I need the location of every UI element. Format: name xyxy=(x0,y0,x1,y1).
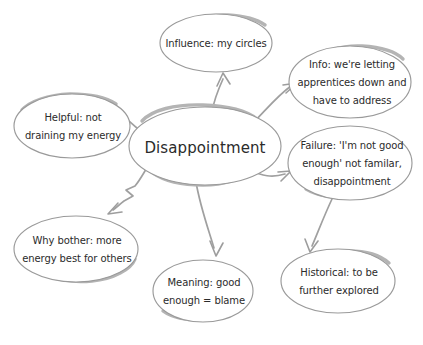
node-influence[interactable]: Influence: my circles xyxy=(160,14,272,72)
node-meaning-label-line2: enough = blame xyxy=(163,295,245,306)
node-failure-label-line3: disappointment xyxy=(313,176,390,187)
node-failure-label-line2: enough' not familar, xyxy=(302,158,401,169)
connector-central-to-meaning xyxy=(196,182,223,256)
node-failure-label-line1: Failure: 'I'm not good xyxy=(300,140,403,151)
node-historical-label-line1: Historical: to be xyxy=(300,267,377,278)
node-why-bother[interactable]: Why bother: more energy best for others xyxy=(14,216,138,282)
mindmap-diagram: Disappointment Influence: my circles Inf… xyxy=(0,0,423,345)
node-info-label-line3: have to address xyxy=(313,95,392,106)
node-meaning-outline xyxy=(153,260,253,322)
node-info-label-line1: Info: we're letting xyxy=(309,59,395,70)
node-meaning-label-line1: Meaning: good xyxy=(168,277,241,288)
node-central-label: Disappointment xyxy=(144,139,265,157)
node-influence-label: Influence: my circles xyxy=(165,38,266,49)
node-helpful-outline xyxy=(14,94,130,158)
node-failure[interactable]: Failure: 'I'm not good enough' not famil… xyxy=(288,126,412,200)
connector-central-to-why-bother xyxy=(108,166,148,214)
node-helpful[interactable]: Helpful: not draining my energy xyxy=(14,94,130,158)
node-why-bother-label-line1: Why bother: more xyxy=(33,235,122,246)
node-info[interactable]: Info: we're letting apprentices down and… xyxy=(289,46,411,118)
node-historical-outline xyxy=(281,249,395,313)
mindmap-canvas: Disappointment Influence: my circles Inf… xyxy=(0,0,423,345)
connector-failure-to-historical xyxy=(305,199,332,252)
node-group: Disappointment Influence: my circles Inf… xyxy=(14,14,412,322)
node-helpful-label-line1: Helpful: not xyxy=(44,112,101,123)
node-meaning[interactable]: Meaning: good enough = blame xyxy=(153,260,253,322)
node-historical-label-line2: further explored xyxy=(299,285,379,296)
node-info-label-line2: apprentices down and xyxy=(298,77,407,88)
node-why-bother-label-line2: energy best for others xyxy=(22,253,131,264)
node-helpful-label-line2: draining my energy xyxy=(25,130,121,141)
node-historical[interactable]: Historical: to be further explored xyxy=(281,249,395,313)
node-why-bother-outline xyxy=(14,216,138,282)
